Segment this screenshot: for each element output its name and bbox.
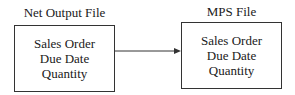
arrowhead-icon (174, 48, 181, 54)
mps-file-box: Sales Order Due Date Quantity (181, 22, 282, 89)
field-quantity: Quantity (209, 63, 255, 78)
field-due-date: Due Date (207, 48, 256, 63)
mps-file-title: MPS File (181, 5, 282, 19)
field-sales-order: Sales Order (201, 33, 262, 48)
